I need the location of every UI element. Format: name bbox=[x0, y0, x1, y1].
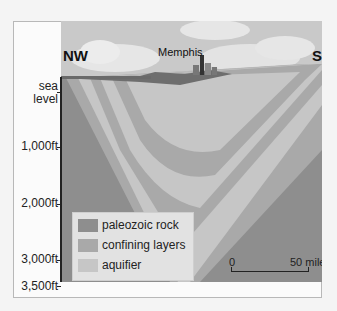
tick-3000ft bbox=[57, 260, 61, 261]
axis-label-1000ft: 1,000ft bbox=[4, 140, 58, 153]
legend-item-paleozoic: paleozoic rock bbox=[78, 216, 179, 234]
axis-label-sea-level: sea level bbox=[14, 80, 58, 106]
direction-label-se: SE bbox=[312, 47, 322, 64]
axis-label-2000ft: 2,000ft bbox=[4, 197, 58, 210]
legend: paleozoic rock confining layers aquifier bbox=[72, 212, 194, 281]
scale-bar-tick-left bbox=[231, 267, 232, 272]
scale-bar-end: 50 mile bbox=[290, 256, 322, 268]
legend-item-confining: confining layers bbox=[78, 236, 185, 254]
tick-sea-level bbox=[57, 92, 61, 93]
axis-label-level: level bbox=[33, 92, 58, 106]
legend-swatch-paleozoic bbox=[78, 219, 98, 232]
tick-3500ft bbox=[57, 286, 61, 287]
scale-bar-line bbox=[231, 271, 309, 272]
legend-swatch-aquifier bbox=[78, 259, 98, 272]
tick-2000ft bbox=[57, 204, 61, 205]
tick-1000ft bbox=[57, 147, 61, 148]
scale-bar-tick-right bbox=[308, 267, 309, 272]
axis-label-sea: sea bbox=[39, 79, 58, 93]
legend-swatch-confining bbox=[78, 239, 98, 252]
axis-label-3000ft: 3,000ft bbox=[4, 253, 58, 266]
axis-label-3500ft: 3,500ft bbox=[4, 280, 58, 293]
legend-label-paleozoic: paleozoic rock bbox=[102, 218, 179, 232]
city-label-memphis: Memphis bbox=[158, 46, 203, 58]
scale-bar-start: 0 bbox=[229, 256, 235, 268]
legend-label-confining: confining layers bbox=[102, 238, 185, 252]
legend-label-aquifier: aquifier bbox=[102, 258, 141, 272]
direction-label-nw: NW bbox=[63, 47, 88, 64]
legend-item-aquifier: aquifier bbox=[78, 256, 141, 274]
